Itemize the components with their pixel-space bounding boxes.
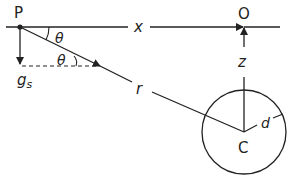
gravity-diagram: P O C x z r d θ θ gs	[0, 0, 292, 182]
label-theta-bottom: θ	[57, 52, 66, 68]
theta-arc-bottom	[74, 56, 77, 66]
diagram-canvas: P O C x z r d θ θ gs	[0, 0, 292, 182]
label-theta-top: θ	[55, 30, 64, 46]
d-radius-line-a	[244, 125, 257, 132]
d-radius-line-b	[273, 114, 283, 118]
r-line-mid	[100, 66, 132, 82]
label-z: z	[237, 53, 247, 71]
label-gs: gs	[17, 71, 33, 91]
label-p: P	[14, 4, 23, 22]
theta-arc-top	[46, 27, 49, 40]
label-x: x	[133, 18, 143, 36]
r-line-end	[152, 92, 244, 132]
label-o: O	[238, 5, 250, 23]
label-c: C	[238, 139, 248, 157]
label-r: r	[136, 80, 143, 98]
label-d: d	[261, 115, 270, 131]
